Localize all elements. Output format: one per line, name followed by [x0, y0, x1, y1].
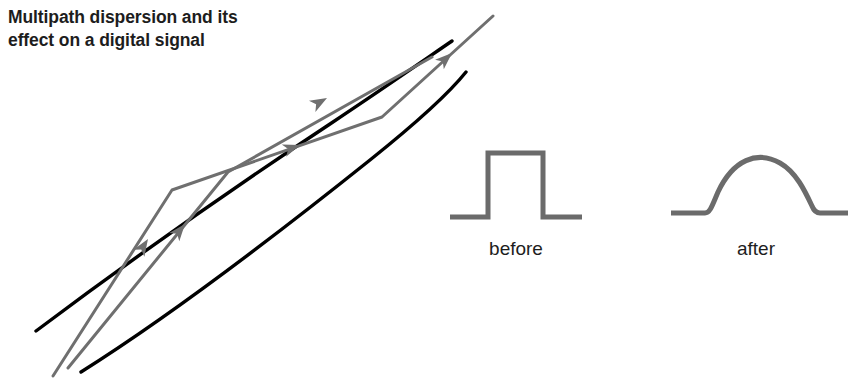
- pulse-before-label: before: [456, 238, 576, 260]
- figure-title: Multipath dispersion and its effect on a…: [8, 6, 308, 52]
- ray-path-direct-arrowhead-2: [309, 92, 330, 112]
- pulse-after-waveform: [671, 157, 848, 213]
- multipath-dispersion-figure: Multipath dispersion and its effect on a…: [0, 0, 864, 383]
- ray-path-direct: [68, 57, 432, 368]
- pulse-after-group: [671, 157, 848, 213]
- pulse-before-group: [450, 153, 582, 217]
- pulse-before-waveform: [450, 153, 582, 217]
- waveguide-lower-wall: [81, 72, 466, 372]
- ray-paths-group: [53, 16, 493, 376]
- diagram-canvas: [0, 0, 864, 383]
- waveguide-upper-wall: [36, 41, 452, 331]
- ray-path-zigzag: [53, 16, 493, 376]
- waveguide-group: [36, 41, 466, 372]
- pulse-after-label: after: [696, 238, 816, 260]
